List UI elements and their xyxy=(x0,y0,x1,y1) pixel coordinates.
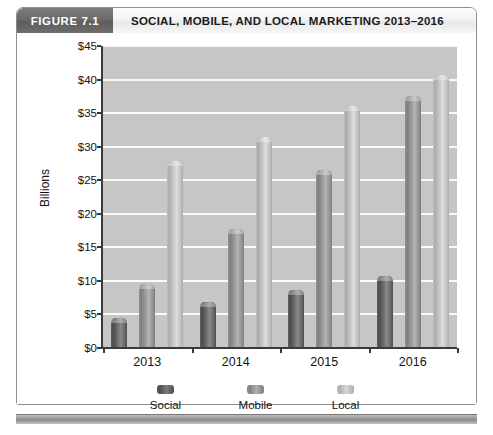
bar-social-2015 xyxy=(288,290,304,348)
legend-swatch-local xyxy=(337,385,354,394)
x-axis-label-2016: 2016 xyxy=(399,355,427,369)
figure-bottom-rule xyxy=(16,414,477,424)
plot-area xyxy=(103,46,457,348)
x-axis-line xyxy=(101,347,457,349)
bar-cap xyxy=(433,75,449,80)
bar-local-2014 xyxy=(256,137,272,348)
y-axis-tick-mark xyxy=(97,112,101,114)
y-axis-tick-label: $45 xyxy=(57,40,97,52)
y-axis-tick-mark xyxy=(97,246,101,248)
bar-mobile-2014 xyxy=(228,229,244,348)
gridline xyxy=(103,46,457,47)
bar-mobile-2015 xyxy=(316,170,332,348)
bar-mobile-2016 xyxy=(405,96,421,348)
bar-cap xyxy=(316,170,332,175)
bar-local-2013 xyxy=(167,161,183,348)
bar-mobile-2013 xyxy=(139,284,155,348)
bar-local-2016 xyxy=(433,75,449,348)
y-axis-tick-label: $20 xyxy=(57,208,97,220)
y-axis-tick-label: $40 xyxy=(57,74,97,86)
y-axis-tick-mark xyxy=(97,79,101,81)
x-axis-label-2013: 2013 xyxy=(133,355,161,369)
y-axis-tick-label: $15 xyxy=(57,241,97,253)
y-axis-line xyxy=(101,46,103,348)
bar-cap xyxy=(256,137,272,142)
bar-cap xyxy=(288,290,304,295)
bar-local-2015 xyxy=(344,106,360,348)
y-axis-tick-mark xyxy=(97,213,101,215)
x-axis-label-2014: 2014 xyxy=(222,355,250,369)
figure-number-tag: FIGURE 7.1 xyxy=(17,8,113,33)
figure-header: FIGURE 7.1 SOCIAL, MOBILE, AND LOCAL MAR… xyxy=(17,8,476,33)
legend-label-local: Local xyxy=(332,399,360,411)
gridline xyxy=(103,179,457,181)
x-axis-tick-mark xyxy=(192,348,194,353)
y-axis-tick-mark xyxy=(97,280,101,282)
chart-body: Billions $0$5$10$15$20$25$30$35$40$45 20… xyxy=(17,33,476,404)
legend-label-social: Social xyxy=(150,399,181,411)
bar-cap xyxy=(344,106,360,111)
x-axis-tick-mark xyxy=(280,348,282,353)
y-axis-tick-mark xyxy=(97,146,101,148)
legend-swatch-social xyxy=(157,385,174,394)
legend-item-mobile: Mobile xyxy=(230,385,282,411)
y-axis-tick-label: $30 xyxy=(57,141,97,153)
bar-social-2014 xyxy=(200,302,216,348)
gridline xyxy=(103,146,457,148)
bar-cap xyxy=(377,276,393,281)
figure-title: SOCIAL, MOBILE, AND LOCAL MARKETING 2013… xyxy=(113,8,476,33)
y-axis-tick-label: $10 xyxy=(57,275,97,287)
x-axis-label-2015: 2015 xyxy=(310,355,338,369)
bar-cap xyxy=(200,302,216,307)
gridline xyxy=(103,280,457,282)
legend-label-mobile: Mobile xyxy=(239,399,273,411)
x-axis-tick-mark xyxy=(457,348,459,353)
y-axis-tick-mark xyxy=(97,179,101,181)
y-axis-tick-mark xyxy=(97,45,101,47)
bar-cap xyxy=(405,96,421,101)
gridline xyxy=(103,246,457,248)
y-axis-tick-labels: $0$5$10$15$20$25$30$35$40$45 xyxy=(57,33,97,353)
plot-frame xyxy=(101,46,457,348)
legend-item-social: Social xyxy=(140,385,192,411)
y-axis-label: Billions xyxy=(38,148,52,228)
bar-cap xyxy=(228,229,244,234)
bar-cap xyxy=(139,284,155,289)
y-axis-tick-label: $25 xyxy=(57,174,97,186)
bar-social-2013 xyxy=(111,318,127,348)
y-axis-tick-label: $35 xyxy=(57,107,97,119)
x-axis-tick-mark xyxy=(369,348,371,353)
y-axis-tick-label: $0 xyxy=(57,342,97,354)
figure-root: FIGURE 7.1 SOCIAL, MOBILE, AND LOCAL MAR… xyxy=(0,0,493,435)
gridline xyxy=(103,112,457,114)
legend-swatch-mobile xyxy=(247,385,264,394)
legend-item-local: Local xyxy=(320,385,372,411)
gridline xyxy=(103,213,457,215)
chart-legend: SocialMobileLocal xyxy=(17,385,476,411)
y-axis-tick-mark xyxy=(97,347,101,349)
x-axis-tick-mark xyxy=(103,348,105,353)
figure-box: FIGURE 7.1 SOCIAL, MOBILE, AND LOCAL MAR… xyxy=(16,7,477,405)
y-axis-tick-label: $5 xyxy=(57,308,97,320)
y-axis-tick-mark xyxy=(97,313,101,315)
bar-cap xyxy=(167,161,183,166)
bar-social-2016 xyxy=(377,276,393,348)
gridline xyxy=(103,313,457,315)
gridline xyxy=(103,79,457,81)
bar-cap xyxy=(111,318,127,323)
